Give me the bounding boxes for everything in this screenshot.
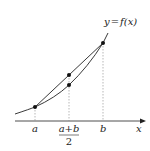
point-f-mid [67, 83, 71, 87]
tick-label-b: b [100, 123, 106, 134]
tick-label-mid-denominator: 2 [66, 136, 72, 147]
tick-label-a: a [32, 123, 38, 134]
curve-label: y=f(x) [103, 16, 137, 27]
point-fa [33, 105, 37, 109]
point-fb [101, 41, 105, 45]
convexity-diagram: y=f(x) a b x a+b 2 [0, 0, 150, 151]
axis-label-x: x [136, 123, 142, 134]
function-curve [15, 33, 108, 114]
point-chord-mid [67, 73, 71, 77]
tick-label-mid-numerator: a+b [59, 123, 80, 134]
